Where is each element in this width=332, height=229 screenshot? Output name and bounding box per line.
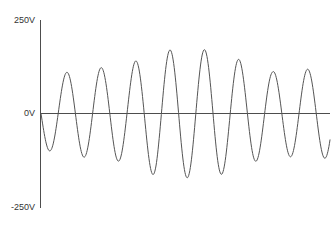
y-axis-tick-label-max: 250V xyxy=(0,15,35,25)
y-axis-tick-label-zero: 0V xyxy=(0,108,35,118)
y-axis-tick-label-min: -250V xyxy=(0,202,35,212)
chart-plot-area xyxy=(0,0,332,229)
voltage-waveform-chart: 250V 0V -250V xyxy=(0,0,332,229)
